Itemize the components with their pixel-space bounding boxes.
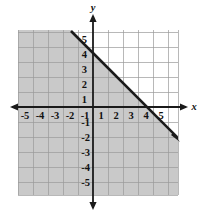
- x-tick-label--4: -4: [36, 110, 45, 121]
- y-tick-label--5: -5: [81, 177, 90, 188]
- y-tick-label--2: -2: [81, 132, 90, 143]
- x-tick-label-3: 3: [128, 110, 133, 121]
- y-tick-label-4: 4: [82, 49, 88, 60]
- y-tick-label--3: -3: [81, 147, 90, 158]
- x-axis-label: x: [190, 101, 196, 112]
- x-tick-label-1: 1: [98, 110, 103, 121]
- y-tick-label--4: -4: [81, 162, 90, 173]
- y-tick-label--1: -1: [81, 117, 90, 128]
- x-tick-label--3: -3: [51, 110, 60, 121]
- coordinate-plane: x y -5 -4 -3 -2 -1 1 2 3 4 5 5 4 3 2 1 -…: [0, 0, 206, 216]
- y-tick-label-3: 3: [82, 64, 87, 75]
- x-tick-label-5: 5: [158, 110, 163, 121]
- graph-figure: x y -5 -4 -3 -2 -1 1 2 3 4 5 5 4 3 2 1 -…: [0, 0, 206, 216]
- y-tick-label-1: 1: [82, 94, 87, 105]
- x-tick-label-2: 2: [113, 110, 118, 121]
- y-tick-label-5: 5: [82, 34, 87, 45]
- x-tick-label--5: -5: [21, 110, 30, 121]
- y-axis-label: y: [89, 2, 96, 13]
- x-tick-label--2: -2: [66, 110, 75, 121]
- x-tick-label-4: 4: [143, 110, 149, 121]
- y-tick-label-2: 2: [82, 79, 87, 90]
